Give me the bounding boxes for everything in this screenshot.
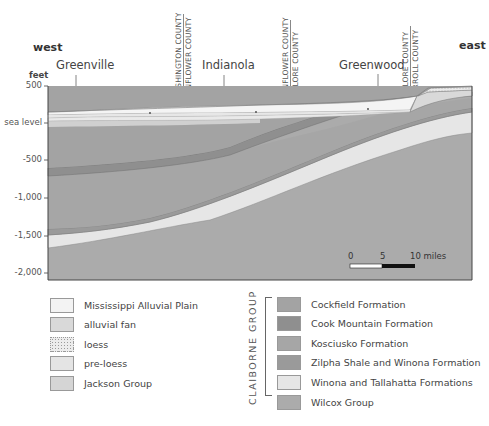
- swatch-mississippi-alluvial-plain: [50, 298, 74, 313]
- swatch-cockfield: [277, 297, 301, 312]
- y-axis-ticks: [44, 86, 48, 273]
- claiborne-group-label: CLAIBORNE GROUP: [247, 297, 258, 405]
- swatch-zilpha-shale: [277, 355, 301, 370]
- legend-label: Winona and Tallahatta Formations: [311, 377, 473, 388]
- swatch-jackson-group: [50, 376, 74, 391]
- scale-label-10-miles: 10 miles: [410, 251, 446, 261]
- legend-label: Jackson Group: [84, 378, 152, 389]
- legend-item: pre-loess: [50, 355, 127, 371]
- swatch-pre-loess: [50, 356, 74, 371]
- swatch-alluvial-fan: [50, 317, 74, 332]
- yazoo-river-marker: [367, 108, 369, 110]
- bogue-phalia-marker: [149, 112, 151, 114]
- legend-label: Wilcox Group: [311, 397, 374, 408]
- swatch-cook-mountain: [277, 316, 301, 331]
- legend-label: pre-loess: [84, 358, 127, 369]
- legend-item: loess: [50, 336, 108, 352]
- legend-item: Zilpha Shale and Winona Formation: [277, 354, 480, 370]
- legend-label: Cockfield Formation: [311, 299, 406, 310]
- legend-label: Kosciusko Formation: [311, 338, 408, 349]
- scale-label-5: 5: [380, 251, 385, 261]
- swatch-winona-tallahatta: [277, 375, 301, 390]
- legend-item: Jackson Group: [50, 375, 152, 391]
- sunflower-river-marker: [255, 111, 257, 113]
- legend-item: alluvial fan: [50, 316, 136, 332]
- legend-item: Wilcox Group: [277, 394, 374, 410]
- legend-label: alluvial fan: [84, 319, 136, 330]
- legend-item: Kosciusko Formation: [277, 335, 408, 351]
- legend-label: Zilpha Shale and Winona Formation: [311, 357, 480, 368]
- scale-bar-black: [382, 264, 415, 268]
- legend-item: Mississippi Alluvial Plain: [50, 297, 198, 313]
- legend-label: loess: [84, 339, 108, 350]
- legend-label: Mississippi Alluvial Plain: [84, 300, 198, 311]
- scale-label-0: 0: [348, 251, 353, 261]
- legend-item: Cook Mountain Formation: [277, 315, 433, 331]
- legend-label: Cook Mountain Formation: [311, 318, 433, 329]
- claiborne-group-bracket: [265, 297, 272, 396]
- swatch-kosciusko: [277, 336, 301, 351]
- legend-item: Cockfield Formation: [277, 296, 406, 312]
- swatch-loess: [50, 337, 74, 352]
- legend-item: Winona and Tallahatta Formations: [277, 374, 473, 390]
- scale-bar-white: [350, 264, 382, 268]
- swatch-wilcox-group: [277, 395, 301, 410]
